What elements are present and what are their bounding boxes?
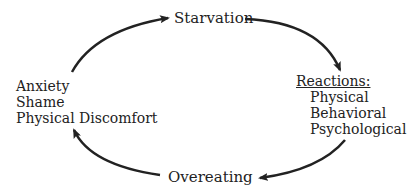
left-item-physical-discomfort: Physical Discomfort <box>16 110 157 126</box>
reaction-physical: Physical <box>296 89 406 105</box>
arrow-to-starvation <box>72 18 168 72</box>
reaction-psychological: Psychological <box>296 121 406 137</box>
left-item-shame: Shame <box>16 94 157 110</box>
left-item-anxiety: Anxiety <box>16 78 157 94</box>
node-starvation: Starvation <box>174 10 253 26</box>
node-overeating: Overeating <box>168 169 253 185</box>
arrow-to-overeating <box>260 140 345 178</box>
arrow-to-reactions <box>245 19 340 70</box>
reaction-behavioral: Behavioral <box>296 105 406 121</box>
reactions-title: Reactions: <box>296 73 406 89</box>
node-reactions: Reactions: Physical Behavioral Psycholog… <box>296 73 406 137</box>
arrow-to-anxiety <box>74 130 160 175</box>
node-left-stack: Anxiety Shame Physical Discomfort <box>16 78 157 126</box>
